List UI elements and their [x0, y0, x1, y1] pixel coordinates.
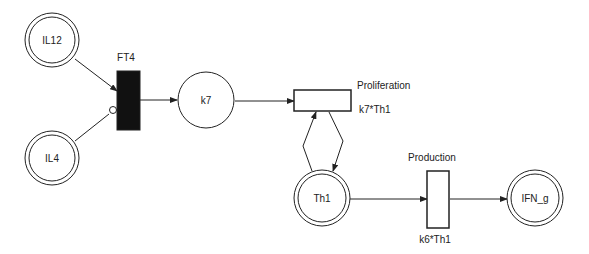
transition-ft4: FT4: [117, 52, 140, 130]
place-label: IL12: [42, 35, 62, 46]
arc-proliferation-th1: [329, 112, 343, 171]
diagram-canvas: IL12 IL4 k7 Th1 IFN_g FT4 Proliferation …: [0, 0, 589, 254]
place-ifn-g: IFN_g: [507, 170, 563, 226]
transition-label: FT4: [117, 52, 135, 63]
place-th1: Th1: [294, 170, 350, 226]
transition-label: Proliferation: [357, 80, 410, 91]
place-k7: k7: [178, 72, 234, 128]
place-label: Th1: [313, 193, 331, 204]
place-il4: IL4: [25, 131, 79, 185]
transition-label: Production: [408, 152, 456, 163]
arc-th1-proliferation: [303, 112, 316, 171]
petri-net-diagram: IL12 IL4 k7 Th1 IFN_g FT4 Proliferation …: [0, 0, 589, 254]
arc-il4-ft4-inhibitor: [75, 114, 109, 141]
transition-proliferation: Proliferation k7*Th1: [294, 80, 410, 115]
arc-il12-ft4: [75, 59, 117, 91]
place-label: IFN_g: [521, 193, 548, 204]
inhibitor-circle-icon: [110, 107, 117, 114]
transition-rate: k6*Th1: [419, 234, 451, 245]
place-label: k7: [201, 95, 212, 106]
place-il12: IL12: [25, 13, 79, 67]
place-label: IL4: [45, 153, 59, 164]
transition-rate: k7*Th1: [359, 104, 391, 115]
